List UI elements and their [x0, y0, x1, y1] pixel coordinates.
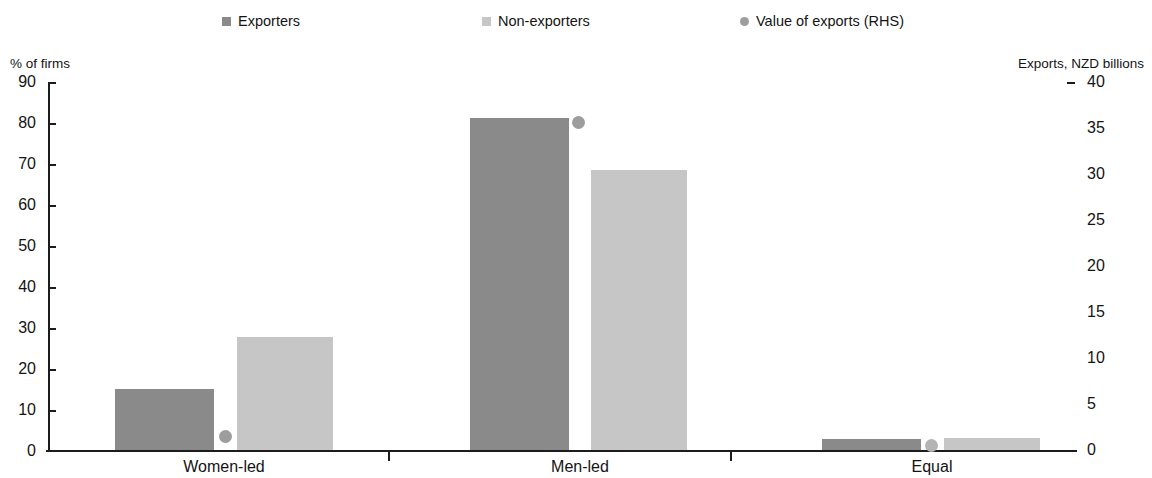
dot-value-of-exports-women-led[interactable] — [219, 430, 232, 443]
dot-swatch-icon — [740, 17, 749, 26]
left-axis-title: % of firms — [10, 56, 70, 71]
x-axis-label-equal: Equal — [912, 458, 953, 476]
right-tick-label-35: 35 — [1087, 120, 1105, 136]
x-axis-separator-tick-2 — [730, 452, 732, 461]
right-tick-label-5: 5 — [1087, 396, 1096, 412]
left-axis-line — [48, 82, 50, 451]
left-tick-label-90: 90 — [18, 74, 36, 90]
left-tick-60 — [48, 205, 56, 207]
dot-value-of-exports-equal[interactable] — [925, 439, 938, 452]
left-tick-70 — [48, 164, 56, 166]
right-axis-title: Exports, NZD billions — [1018, 56, 1144, 71]
left-tick-label-50: 50 — [18, 238, 36, 254]
x-axis-line — [46, 450, 1077, 452]
x-axis-separator-tick-1 — [388, 452, 390, 461]
left-tick-label-70: 70 — [18, 156, 36, 172]
legend-item-non-exporters[interactable]: Non-exporters — [482, 14, 590, 28]
left-tick-90 — [48, 82, 56, 84]
right-axis-top-cap — [1067, 82, 1075, 84]
left-tick-label-60: 60 — [18, 197, 36, 213]
right-axis-bottom-cap — [1065, 450, 1075, 452]
bar-exporters-men-led[interactable] — [470, 118, 569, 450]
right-tick-label-10: 10 — [1087, 350, 1105, 366]
x-axis-label-men-led: Men-led — [551, 458, 609, 476]
left-tick-label-30: 30 — [18, 320, 36, 336]
dot-value-of-exports-men-led[interactable] — [572, 116, 585, 129]
left-tick-40 — [48, 287, 56, 289]
left-tick-label-20: 20 — [18, 361, 36, 377]
legend-label-value-of-exports: Value of exports (RHS) — [756, 14, 904, 28]
right-tick-label-15: 15 — [1087, 304, 1105, 320]
bar-non-exporters-equal[interactable] — [944, 438, 1040, 450]
bar-exporters-women-led[interactable] — [115, 389, 214, 450]
left-tick-label-80: 80 — [18, 115, 36, 131]
right-tick-label-30: 30 — [1087, 166, 1105, 182]
chart-container: Exporters Non-exporters Value of exports… — [0, 0, 1152, 478]
bar-non-exporters-women-led[interactable] — [237, 337, 333, 450]
left-tick-10 — [48, 410, 56, 412]
square-swatch-icon — [222, 17, 231, 26]
plot-area: 90 80 70 60 50 40 30 20 10 0 40 35 30 25… — [48, 82, 1075, 450]
square-swatch-icon — [482, 17, 491, 26]
right-tick-label-0: 0 — [1087, 442, 1096, 458]
left-tick-80 — [48, 123, 56, 125]
legend-item-value-of-exports[interactable]: Value of exports (RHS) — [740, 14, 904, 28]
left-tick-30 — [48, 328, 56, 330]
bar-exporters-equal[interactable] — [822, 439, 921, 450]
right-tick-label-25: 25 — [1087, 212, 1105, 228]
left-tick-20 — [48, 369, 56, 371]
legend-label-non-exporters: Non-exporters — [498, 14, 590, 28]
left-tick-label-40: 40 — [18, 279, 36, 295]
legend-item-exporters[interactable]: Exporters — [222, 14, 300, 28]
legend-label-exporters: Exporters — [238, 14, 300, 28]
left-tick-label-0: 0 — [27, 443, 36, 459]
left-tick-50 — [48, 246, 56, 248]
bar-non-exporters-men-led[interactable] — [591, 170, 687, 450]
x-axis-label-women-led: Women-led — [183, 458, 265, 476]
right-tick-label-40: 40 — [1087, 74, 1105, 90]
right-tick-label-20: 20 — [1087, 258, 1105, 274]
left-tick-label-10: 10 — [18, 402, 36, 418]
chart-legend: Exporters Non-exporters Value of exports… — [0, 14, 1152, 38]
